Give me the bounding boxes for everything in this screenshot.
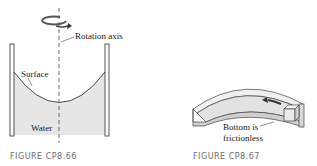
bottom-frictionless-label-line2: frictionless [223, 133, 263, 143]
rotation-axis-leader [61, 37, 74, 42]
figure-curved-channel: Bottom is frictionless FIGURE CP8.67 [160, 0, 317, 166]
bottom-frictionless-label-line1: Bottom is [223, 122, 258, 132]
rotating-container-diagram [0, 0, 160, 166]
rotation-axis-label: Rotation axis [75, 31, 123, 41]
surface-label: Surface [21, 69, 48, 79]
right-wall [105, 44, 109, 136]
figure-rotating-container: Rotation axis Surface Water FIGURE CP8.6… [0, 0, 160, 166]
figure-caption-cp8-67: FIGURE CP8.67 [193, 152, 260, 161]
figure-caption-cp8-66: FIGURE CP8.66 [10, 152, 77, 161]
rotation-arrow-icon [42, 16, 72, 29]
surface-leader [28, 78, 32, 86]
frictionless-leader [260, 122, 274, 126]
channel-end-cap [299, 104, 304, 127]
sliding-box [284, 105, 299, 121]
left-wall [10, 44, 14, 136]
water-region [14, 72, 105, 135]
water-label: Water [31, 123, 52, 133]
